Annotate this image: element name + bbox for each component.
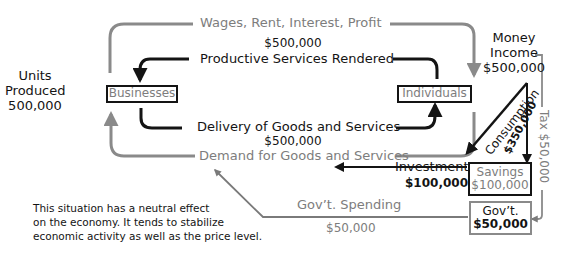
individuals-label: Individuals [402, 87, 467, 100]
delivery-goods-services-label: Delivery of Goods and Services [197, 120, 400, 135]
productive-services-value: $500,000 [196, 37, 390, 51]
govt-spending-value: $50,000 [326, 222, 376, 236]
wages-flow-left-segment [110, 24, 193, 73]
businesses-label: Businesses [109, 87, 176, 100]
units-produced-value: 500,000 [5, 99, 65, 114]
tax-label: Tax $50,000 [537, 110, 551, 183]
productive-services-arrow [140, 59, 189, 80]
govt-value: $50,000 [473, 218, 528, 231]
delivery-left [141, 108, 182, 128]
money-income-label: Money Income $500,000 [480, 31, 548, 76]
units-produced-line1: Units [5, 69, 65, 84]
wages-rent-interest-profit-label: Wages, Rent, Interest, Profit [200, 16, 382, 31]
productive-services-label: Productive Services Rendered [200, 52, 394, 67]
tax-arrow [532, 190, 542, 219]
investment-label: Investment [395, 160, 469, 175]
individuals-node: Individuals [397, 85, 472, 103]
productive-services-right [393, 59, 437, 79]
units-produced-line2: Produced [5, 84, 65, 99]
wages-flow-right-segment [390, 24, 474, 75]
units-produced-label: Units Produced 500,000 [5, 69, 65, 114]
note-line2: on the economy. It tends to stabilize [33, 215, 262, 229]
money-income-line1: Money [480, 31, 548, 46]
investment-value: $100,000 [405, 177, 468, 191]
govt-node: Gov’t. $50,000 [469, 201, 532, 235]
govt-spending-label: Gov’t. Spending [297, 198, 401, 213]
delivery-arrow [396, 105, 435, 128]
savings-value: $100,000 [471, 179, 528, 192]
money-income-value: $500,000 [480, 61, 548, 76]
money-income-line2: Income [480, 46, 548, 61]
circular-flow-diagram: Units Produced 500,000 Businesses Indivi… [0, 0, 581, 260]
savings-node: Savings $100,000 [468, 162, 532, 196]
neutral-effect-note: This situation has a neutral effect on t… [33, 201, 262, 243]
note-line1: This situation has a neutral effect [33, 201, 262, 215]
demand-goods-services-label: Demand for Goods and Services [199, 149, 409, 164]
note-line3: economic activity as well as the price l… [33, 229, 262, 243]
delivery-goods-services-value: $500,000 [196, 135, 390, 149]
businesses-node: Businesses [106, 85, 178, 103]
demand-arrow [111, 114, 195, 156]
